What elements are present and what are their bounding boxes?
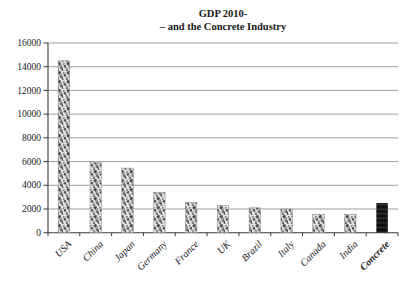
- y-tick-label-10000: 10000: [17, 109, 41, 119]
- y-tick-label-12000: 12000: [17, 86, 41, 96]
- y-tick-label-4000: 4000: [22, 180, 41, 190]
- x-label-China: China: [80, 238, 105, 263]
- bar-USA: [58, 61, 69, 233]
- x-label-Concrete: Concrete: [357, 238, 391, 272]
- x-label-Germany: Germany: [135, 238, 169, 272]
- bar-France: [185, 202, 197, 232]
- y-tick-label-2000: 2000: [22, 204, 41, 214]
- y-tick-label-16000: 16000: [17, 38, 41, 48]
- bar-Brazil: [249, 208, 261, 233]
- bar-Japan: [122, 168, 134, 233]
- x-label-Brazil: Brazil: [239, 238, 264, 263]
- x-label-Canada: Canada: [298, 238, 328, 268]
- x-label-Japan: Japan: [112, 238, 137, 263]
- y-tick-label-14000: 14000: [17, 62, 41, 72]
- chart-title-line1: GDP 2010-: [31, 7, 415, 20]
- x-label-India: India: [336, 238, 359, 261]
- y-tick-label-8000: 8000: [22, 133, 41, 143]
- bar-China: [90, 163, 102, 233]
- x-label-USA: USA: [53, 238, 74, 259]
- bar-Italy: [281, 209, 293, 233]
- x-label-France: France: [172, 238, 201, 267]
- bar-Canada: [313, 214, 325, 232]
- chart-title-line2: – and the Concrete Industry: [31, 20, 415, 33]
- bar-Concrete: [376, 203, 388, 233]
- x-label-UK: UK: [215, 237, 234, 256]
- gdp-concrete-chart-figure: GDP 2010- – and the Concrete Industry 02…: [0, 0, 415, 292]
- bar-Germany: [154, 192, 166, 232]
- y-tick-label-6000: 6000: [22, 157, 41, 167]
- bar-UK: [217, 205, 229, 232]
- chart-title: GDP 2010- – and the Concrete Industry: [31, 7, 415, 33]
- x-label-Italy: Italy: [275, 238, 297, 260]
- bar-India: [345, 214, 357, 232]
- gdp-bar-chart: 0200040006000800010000120001400016000USA…: [0, 35, 415, 292]
- y-tick-label-0: 0: [36, 228, 41, 238]
